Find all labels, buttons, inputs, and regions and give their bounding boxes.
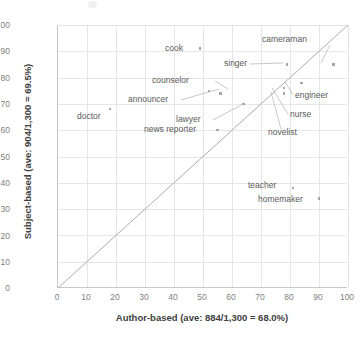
data-point[interactable] xyxy=(109,108,112,111)
x-tick-label: 50 xyxy=(187,293,217,302)
y-tick-label: 50 xyxy=(0,153,10,162)
plot-area xyxy=(57,25,347,288)
y-tick-label: 0 xyxy=(0,284,10,293)
x-tick-label: 40 xyxy=(158,293,188,302)
x-tick-label: 10 xyxy=(71,293,101,302)
reference-line-diagonal xyxy=(58,25,348,288)
point-label-doctor: doctor xyxy=(77,112,101,121)
x-tick-label: 100 xyxy=(332,293,362,302)
x-tick-label: 20 xyxy=(100,293,130,302)
data-point[interactable] xyxy=(332,63,335,66)
point-label-engineer: engineer xyxy=(295,91,328,100)
y-tick-label: 70 xyxy=(0,100,10,109)
point-label-singer: singer xyxy=(224,59,247,68)
point-label-announcer: announcer xyxy=(128,95,168,104)
point-label-counselor: counselor xyxy=(152,76,189,85)
data-point[interactable] xyxy=(219,92,222,95)
point-label-teacher: teacher xyxy=(248,181,276,190)
point-label-cook: cook xyxy=(165,44,183,53)
data-point[interactable] xyxy=(300,82,303,85)
data-point[interactable] xyxy=(283,87,286,90)
y-tick-label: 40 xyxy=(0,179,10,188)
point-label-nurse: nurse xyxy=(290,110,311,119)
scan-artifact xyxy=(88,1,97,8)
y-tick-label: 60 xyxy=(0,126,10,135)
point-label-news-reporter: news reporter xyxy=(144,125,196,134)
x-tick-label: 0 xyxy=(42,293,72,302)
point-label-homemaker: homemaker xyxy=(258,195,303,204)
y-tick-label: 80 xyxy=(0,74,10,83)
y-tick-label: 90 xyxy=(0,47,10,56)
y-tick-label: 100 xyxy=(0,21,10,30)
data-point[interactable] xyxy=(208,90,211,93)
x-tick-label: 90 xyxy=(303,293,333,302)
data-point[interactable] xyxy=(216,129,219,132)
data-point[interactable] xyxy=(199,47,202,50)
x-axis-title: Author-based (ave: 884/1,300 = 68.0%) xyxy=(57,312,347,323)
scatter-chart: Subject-based (ave: 904/1,300 = 69.5%) 1… xyxy=(0,0,363,338)
x-tick-label: 70 xyxy=(245,293,275,302)
y-tick-label: 20 xyxy=(0,232,10,241)
point-label-lawyer: lawyer xyxy=(176,115,201,124)
y-tick-label: 10 xyxy=(0,258,10,267)
y-tick-label: 30 xyxy=(0,205,10,214)
data-point[interactable] xyxy=(286,63,289,66)
x-tick-label: 30 xyxy=(129,293,159,302)
y-axis-title: Subject-based (ave: 904/1,300 = 69.5%) xyxy=(22,12,33,292)
data-point[interactable] xyxy=(292,187,295,190)
x-tick-label: 80 xyxy=(274,293,304,302)
point-label-cameraman: cameraman xyxy=(262,35,307,44)
point-label-novelist: novelist xyxy=(268,128,297,137)
data-point[interactable] xyxy=(283,92,286,95)
data-point[interactable] xyxy=(242,103,245,106)
gridline-vertical xyxy=(348,25,349,287)
x-tick-label: 60 xyxy=(216,293,246,302)
data-point[interactable] xyxy=(318,197,321,200)
